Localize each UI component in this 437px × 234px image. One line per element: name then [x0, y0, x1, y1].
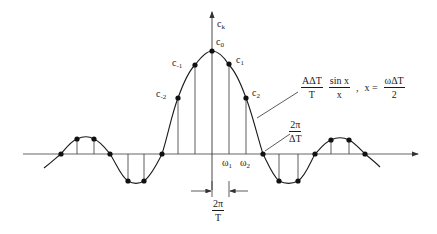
label-omega1: ω1	[222, 158, 232, 171]
label-c-minus-1: c-1	[172, 58, 182, 71]
formula-fraction-x: ωΔT2	[384, 75, 405, 100]
zero-label-leader-line	[265, 134, 290, 151]
y-axis-label: ck	[217, 19, 225, 32]
envelope-formula: AΔTT sin xx , x = ωΔT2	[301, 75, 405, 100]
label-c-minus-2: c-2	[156, 89, 166, 102]
formula-fraction-sinc: sin xx	[329, 75, 350, 100]
zero-crossing-label: 2πΔT	[289, 119, 302, 144]
label-omega2: ω2	[240, 158, 250, 171]
formula-leader-line	[257, 92, 298, 118]
formula-fraction-amplitude: AΔTT	[301, 75, 323, 100]
label-c2: c2	[252, 88, 260, 101]
sample-points	[58, 48, 367, 183]
label-c0: c0	[216, 37, 224, 50]
spacing-dimension	[191, 181, 248, 197]
spacing-label: 2πT	[212, 198, 224, 223]
formula-separator: ,	[356, 82, 359, 93]
formula-x-equals: x =	[364, 82, 377, 93]
label-c1: c1	[236, 55, 244, 68]
